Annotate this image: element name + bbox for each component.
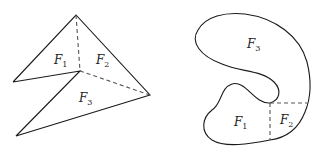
label-left-f3: F3 <box>78 91 92 107</box>
left-figure <box>13 15 150 136</box>
left-outline <box>13 15 150 136</box>
label-right-f1: F1 <box>233 115 247 131</box>
label-right-f2: F2 <box>279 113 293 129</box>
label-right-f3: F3 <box>246 37 260 53</box>
diagram: F1 F2 F3 F3 F1 F2 <box>0 0 321 156</box>
label-left-f1: F1 <box>53 53 67 69</box>
label-left-f2: F2 <box>95 53 109 69</box>
left-dashed-edge-vertical <box>76 15 80 71</box>
